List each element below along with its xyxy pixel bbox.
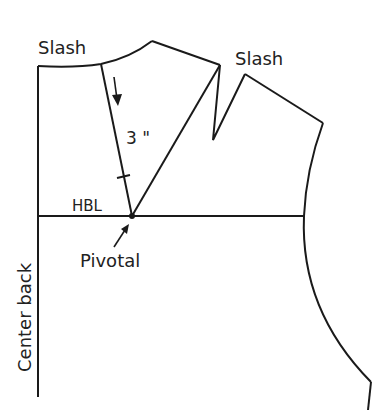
armhole-upper (304, 123, 323, 216)
pivotal-label: Pivotal (80, 250, 140, 271)
hbl-label: HBL (72, 197, 103, 215)
center-back-label: Center back (14, 262, 35, 372)
direction-arrow-icon (112, 94, 122, 106)
side-seam (368, 382, 371, 410)
pivotal-arrow-shaft (114, 230, 125, 247)
pivot-point (129, 213, 135, 219)
armhole-lower (304, 216, 371, 382)
pivotal-arrow-icon (121, 224, 129, 234)
measurement-label: 3 " (126, 128, 150, 148)
slash-label-left: Slash (38, 37, 86, 58)
shoulder-line-left (152, 41, 220, 65)
shoulder-dart (213, 65, 245, 140)
slash-label-right: Slash (235, 48, 283, 69)
pattern-diagram: Slash Slash 3 " HBL Pivotal Center back (0, 0, 377, 417)
shoulder-line-right (245, 74, 323, 123)
